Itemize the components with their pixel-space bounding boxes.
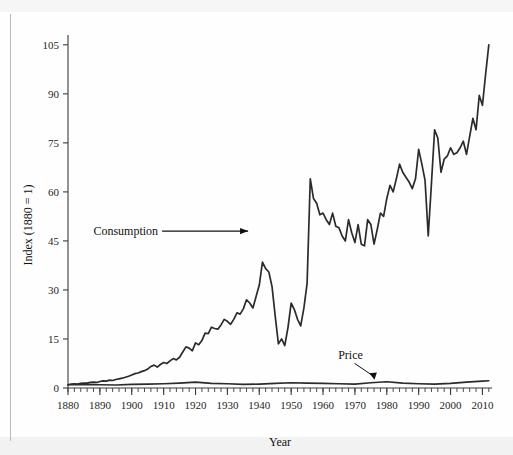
svg-text:1930: 1930 bbox=[216, 399, 239, 411]
series-layer bbox=[68, 45, 489, 385]
svg-text:1920: 1920 bbox=[185, 399, 208, 411]
svg-text:1990: 1990 bbox=[408, 399, 431, 411]
line-chart: 0153045607590105188018901900191019201930… bbox=[0, 0, 513, 455]
svg-text:1960: 1960 bbox=[312, 399, 335, 411]
svg-text:Consumption: Consumption bbox=[93, 224, 158, 238]
svg-text:1900: 1900 bbox=[121, 399, 144, 411]
svg-text:30: 30 bbox=[48, 284, 60, 296]
svg-text:45: 45 bbox=[48, 235, 60, 247]
svg-text:1890: 1890 bbox=[89, 399, 112, 411]
svg-text:1970: 1970 bbox=[344, 399, 367, 411]
svg-text:Price: Price bbox=[338, 348, 363, 362]
svg-text:75: 75 bbox=[48, 137, 60, 149]
svg-text:1910: 1910 bbox=[153, 399, 176, 411]
svg-text:1940: 1940 bbox=[248, 399, 271, 411]
svg-text:1950: 1950 bbox=[280, 399, 303, 411]
svg-text:0: 0 bbox=[54, 382, 60, 394]
svg-text:2000: 2000 bbox=[440, 399, 463, 411]
svg-text:60: 60 bbox=[48, 186, 60, 198]
svg-text:105: 105 bbox=[43, 39, 60, 51]
svg-text:2010: 2010 bbox=[471, 399, 494, 411]
y-axis-title: Index (1880 = 1) bbox=[21, 184, 35, 265]
svg-text:1880: 1880 bbox=[57, 399, 80, 411]
x-axis-title: Year bbox=[269, 435, 291, 449]
figure-canvas: 0153045607590105188018901900191019201930… bbox=[0, 0, 513, 455]
svg-text:15: 15 bbox=[48, 333, 60, 345]
svg-text:1980: 1980 bbox=[376, 399, 399, 411]
svg-text:90: 90 bbox=[48, 88, 60, 100]
axes-layer: 0153045607590105188018901900191019201930… bbox=[43, 35, 494, 411]
annotations-layer: ConsumptionPrice bbox=[93, 224, 376, 380]
